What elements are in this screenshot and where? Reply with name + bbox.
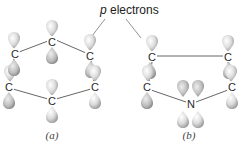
pointer-line-right [126, 19, 141, 38]
atom-c1: C [48, 36, 56, 48]
pyrrole-molecule: C C C N C (b) [141, 35, 238, 142]
atom-c6: C [11, 48, 19, 60]
caption-a: (a) [46, 129, 59, 142]
atom-c5: C [5, 81, 13, 93]
pyrrole-atom-labels: C C C N C [142, 51, 237, 110]
atom-b-c1: C [148, 51, 156, 63]
atom-b-c2: C [224, 51, 232, 63]
atom-c2: C [86, 50, 94, 62]
benzene-molecule: C C C C C C (a) [3, 20, 101, 142]
pyrrole-bonds [149, 56, 231, 102]
caption-b: (b) [183, 129, 196, 142]
p-electron-orbital-diagram: p electrons [0, 0, 243, 148]
atom-c3: C [91, 81, 99, 93]
atom-b-c4: C [143, 81, 151, 93]
p-electrons-label-group: p electrons [92, 3, 159, 38]
atom-c4: C [48, 95, 56, 107]
p-electrons-label: p electrons [99, 3, 159, 17]
atom-n: N [187, 98, 195, 110]
atom-b-c3: C [228, 81, 236, 93]
pointer-line-left [92, 19, 105, 36]
